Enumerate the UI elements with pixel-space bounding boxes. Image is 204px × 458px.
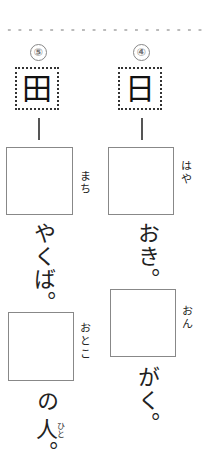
text-4b: がく。 — [130, 366, 162, 435]
answer-box-4b[interactable] — [110, 289, 176, 357]
kanji-box-5: 田 — [15, 67, 59, 110]
answer-box-5b[interactable] — [8, 312, 74, 381]
ruby-5a: まち — [76, 170, 92, 196]
problem-number-5: ⑤ — [30, 44, 47, 61]
text-5a: やくば。 — [26, 222, 58, 314]
ruby-4a: はや — [177, 160, 193, 186]
problem-number-4: ④ — [133, 44, 150, 61]
ruby-hito: ひと — [54, 422, 65, 438]
connector-line-4 — [141, 118, 143, 140]
connector-line-5 — [38, 118, 40, 140]
kanji-box-4: 日 — [118, 67, 162, 110]
answer-box-5a[interactable] — [6, 147, 73, 215]
ruby-4b: おん — [178, 305, 194, 331]
answer-box-4a[interactable] — [108, 147, 174, 215]
ruby-5b: おとこ — [76, 322, 92, 361]
text-5b: の — [29, 390, 61, 413]
dotted-divider — [4, 28, 204, 32]
text-4a: おき。 — [130, 222, 162, 291]
